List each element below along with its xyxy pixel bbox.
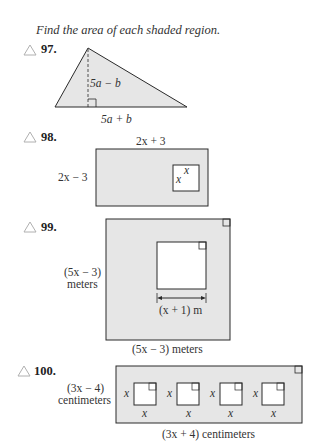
square-side-label: x — [166, 387, 173, 399]
square-bottom-label: x — [185, 407, 192, 419]
side-label: 2x − 3 — [58, 171, 88, 183]
inner-width-label: (x + 1) m — [159, 304, 202, 317]
square-bottom-label: x — [270, 407, 277, 419]
top-label: 2x + 3 — [136, 135, 166, 147]
square-bottom-label: x — [227, 407, 234, 419]
inner-label-side: x — [175, 173, 182, 185]
problem-number: 99. — [41, 220, 57, 235]
bottom-label: (3x + 4) centimeters — [162, 428, 256, 441]
shaded-triangle — [55, 48, 187, 107]
inner-label-top: x — [183, 164, 190, 176]
triangle-marker-icon — [18, 366, 30, 376]
triangle-marker-icon — [24, 45, 36, 55]
triangle-marker-icon — [24, 222, 36, 232]
side-label-line2: meters — [67, 278, 98, 290]
base-label: 5a + b — [101, 113, 132, 125]
square-side-label: x — [209, 387, 216, 399]
problem-number: 98. — [41, 130, 57, 145]
problem-number: 97. — [41, 42, 57, 57]
square-bottom-label: x — [141, 407, 148, 419]
height-label: 5a − b — [90, 77, 121, 89]
triangle-marker-icon — [24, 132, 36, 142]
side-label-line2: centimeters — [58, 394, 112, 406]
bottom-label: (5x − 3) meters — [132, 343, 203, 356]
square-side-label: x — [123, 387, 130, 399]
square-side-label: x — [252, 387, 259, 399]
problem-number: 100. — [34, 364, 56, 379]
